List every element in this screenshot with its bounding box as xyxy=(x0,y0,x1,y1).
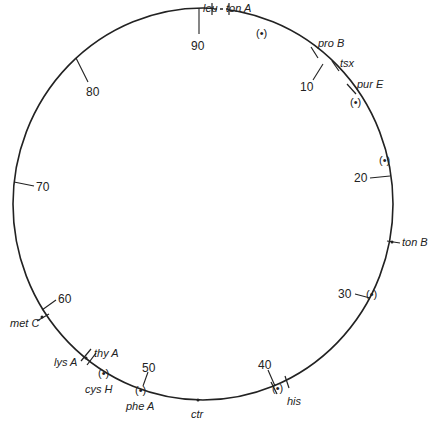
gene-label-his: his xyxy=(287,395,302,407)
origin-marker: (•) xyxy=(366,288,377,300)
gene-label-metC: met C xyxy=(10,317,39,329)
origin-marker: (•) xyxy=(350,96,361,108)
gene-label-pheA: phe A xyxy=(125,400,154,412)
gene-labels: leu ton A pro B tsx pur E ton B his ctr … xyxy=(10,2,428,420)
gene-label-tsx: tsx xyxy=(340,57,355,69)
tick-label-70: 70 xyxy=(36,180,50,194)
tick-label-90: 90 xyxy=(191,39,205,53)
origin-marker: (•) xyxy=(256,27,267,39)
origin-marker: (•) xyxy=(98,367,109,379)
tick-label-10: 10 xyxy=(300,80,314,94)
tick-label-20: 20 xyxy=(354,171,368,185)
tick-label-50: 50 xyxy=(142,361,156,375)
gene-label-purE: pur E xyxy=(356,78,384,90)
gene-label-tonA: ton A xyxy=(226,2,251,14)
origin-marker: (•) xyxy=(272,382,283,394)
tick-label-40: 40 xyxy=(258,358,272,372)
gene-label-cysH: cys H xyxy=(85,383,113,395)
gene-label-leu: leu xyxy=(203,2,218,14)
origin-marker: (•) xyxy=(135,384,146,396)
gene-label-ctr: ctr xyxy=(191,408,205,420)
gene-label-lysA: lys A xyxy=(54,356,77,368)
tick-label-60: 60 xyxy=(58,292,72,306)
tick-label-30: 30 xyxy=(338,287,352,301)
circular-genetic-map: 90 80 70 60 50 40 30 20 10 xyxy=(0,0,436,426)
gene-label-proB: pro B xyxy=(317,37,344,49)
tick-label-80: 80 xyxy=(86,85,100,99)
gene-label-tonB: ton B xyxy=(402,236,428,248)
origin-markers: (•) (•) (•) (•) (•) (•) (•) xyxy=(98,27,390,396)
origin-marker: (•) xyxy=(379,154,390,166)
gene-label-thyA: thy A xyxy=(94,347,119,359)
